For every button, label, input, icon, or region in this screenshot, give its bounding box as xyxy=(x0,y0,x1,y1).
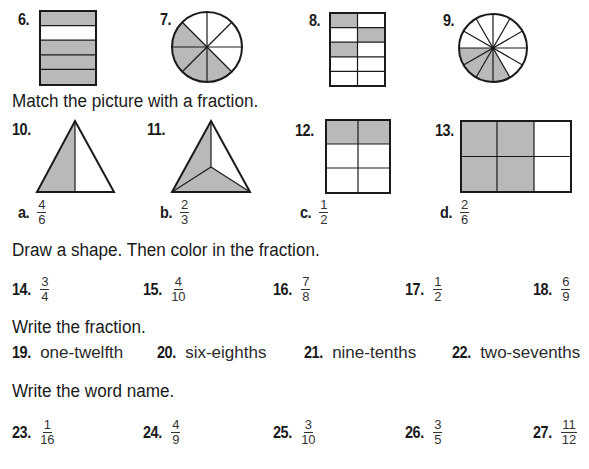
word-name-item-24: 24. 49 xyxy=(143,419,180,446)
word-item-20: 20. six-eighths xyxy=(157,343,266,363)
fraction: 310 xyxy=(301,419,315,446)
word-item-22: 22. two-sevenths xyxy=(452,343,580,363)
section-instruction: Match the picture with a fraction. xyxy=(12,91,258,112)
item-number: 18. xyxy=(533,280,552,300)
word-fraction: six-eighths xyxy=(185,343,266,363)
item-number: 7. xyxy=(160,10,171,30)
item-number: 26. xyxy=(405,423,424,443)
figure-12-grid-sixths xyxy=(326,120,390,193)
word-item-19: 19. one-twelfth xyxy=(12,343,123,363)
word-item-21: 21. nine-tenths xyxy=(304,343,416,363)
choice-letter: a. xyxy=(18,203,29,223)
item-number: 17. xyxy=(405,280,424,300)
figure-11-triangle-thirds xyxy=(171,120,251,194)
figure-6-striped-rectangle xyxy=(40,11,96,85)
figure-7-circle-eighths xyxy=(172,12,242,82)
word-name-item-25: 25. 310 xyxy=(273,419,316,446)
fraction: 410 xyxy=(171,276,185,303)
item-number: 23. xyxy=(12,423,31,443)
item-number: 21. xyxy=(304,343,323,363)
word-fraction: two-sevenths xyxy=(480,343,580,363)
word-name-item-23: 23. 116 xyxy=(12,419,55,446)
word-fraction: one-twelfth xyxy=(40,343,123,363)
section-instruction: Write the fraction. xyxy=(12,317,146,338)
fraction: 34 xyxy=(40,276,49,303)
choice-c: c. 12 xyxy=(300,199,328,226)
fraction: 49 xyxy=(171,419,180,446)
fraction: 23 xyxy=(180,199,189,226)
choice-letter: c. xyxy=(300,203,311,223)
fraction: 12 xyxy=(433,276,442,303)
choice-b: b. 23 xyxy=(160,199,189,226)
item-number: 6. xyxy=(18,10,29,30)
item-number: 20. xyxy=(157,343,176,363)
section-instruction: Draw a shape. Then color in the fraction… xyxy=(12,240,320,261)
choice-d: d. 26 xyxy=(440,199,469,226)
figure-10-triangle-halves xyxy=(36,120,116,194)
figure-13-grid-sixths xyxy=(461,121,571,192)
choice-letter: d. xyxy=(440,203,452,223)
fraction: 26 xyxy=(460,199,469,226)
draw-item-17: 17. 12 xyxy=(405,276,442,303)
item-number: 12. xyxy=(295,121,314,141)
choice-a: a. 46 xyxy=(18,199,46,226)
item-number: 8. xyxy=(309,11,320,31)
figure-8-grid-tenths xyxy=(330,13,385,86)
item-number: 10. xyxy=(12,120,31,140)
draw-item-18: 18. 69 xyxy=(533,276,570,303)
item-number: 16. xyxy=(273,280,292,300)
draw-item-14: 14. 34 xyxy=(12,276,49,303)
word-name-item-27: 27. 1112 xyxy=(533,419,577,446)
item-number: 9. xyxy=(443,11,454,31)
fraction: 78 xyxy=(301,276,310,303)
word-name-item-26: 26. 35 xyxy=(405,419,442,446)
draw-item-16: 16. 78 xyxy=(273,276,310,303)
item-number: 13. xyxy=(435,121,454,141)
item-number: 14. xyxy=(12,280,31,300)
draw-item-15: 15. 410 xyxy=(143,276,186,303)
item-number: 15. xyxy=(143,280,162,300)
item-number: 25. xyxy=(273,423,292,443)
item-number: 24. xyxy=(143,423,162,443)
word-fraction: nine-tenths xyxy=(332,343,416,363)
item-number: 27. xyxy=(533,423,552,443)
section-instruction: Write the word name. xyxy=(12,381,174,402)
fraction: 12 xyxy=(319,199,328,226)
fraction: 1112 xyxy=(561,419,577,446)
fraction: 69 xyxy=(561,276,570,303)
fraction: 116 xyxy=(40,419,54,446)
item-number: 11. xyxy=(147,120,165,140)
item-number: 22. xyxy=(452,343,471,363)
fraction: 35 xyxy=(433,419,442,446)
item-number: 19. xyxy=(12,343,31,363)
fraction: 46 xyxy=(37,199,46,226)
choice-letter: b. xyxy=(160,203,172,223)
figure-9-circle-twelfths xyxy=(459,14,527,82)
